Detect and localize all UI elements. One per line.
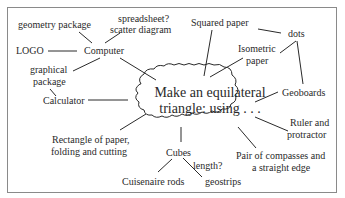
node-graphical: graphical xyxy=(30,64,67,75)
node-geoboards: Geoboards xyxy=(282,87,325,98)
central-node-line2: triangle: using . . . xyxy=(140,101,280,117)
node-geostrips: geostrips xyxy=(205,176,241,187)
node-dots: dots xyxy=(288,28,305,39)
node-geometry-package: geometry package xyxy=(18,19,91,30)
node-cubes: Cubes xyxy=(166,147,191,158)
node-length: length? xyxy=(193,160,222,171)
node-ruler-line2: protractor xyxy=(287,129,326,140)
node-computer: Computer xyxy=(84,45,124,56)
node-spreadsheet: spreadsheet? xyxy=(118,13,169,24)
node-rectangle-line1: Rectangle of paper, xyxy=(52,134,130,145)
central-node: Make an equilateral triangle: using . . … xyxy=(140,85,280,117)
node-package: package xyxy=(33,76,66,87)
central-node-line1: Make an equilateral xyxy=(140,85,280,101)
node-ruler-line1: Ruler and xyxy=(290,117,329,128)
node-logo: LOGO xyxy=(16,45,44,56)
node-isometric: Isometric xyxy=(238,43,276,54)
node-compasses-line1: Pair of compasses and xyxy=(236,150,325,161)
node-cuisenaire-rods: Cuisenaire rods xyxy=(122,176,185,187)
node-scatter-diagram: scatter diagram xyxy=(110,24,171,35)
node-compasses-line2: a straight edge xyxy=(252,162,310,173)
node-paper: paper xyxy=(246,55,268,66)
node-calculator: Calculator xyxy=(43,95,85,106)
node-squared-paper: Squared paper xyxy=(191,17,248,28)
node-rectangle-line2: folding and cutting xyxy=(51,146,127,157)
